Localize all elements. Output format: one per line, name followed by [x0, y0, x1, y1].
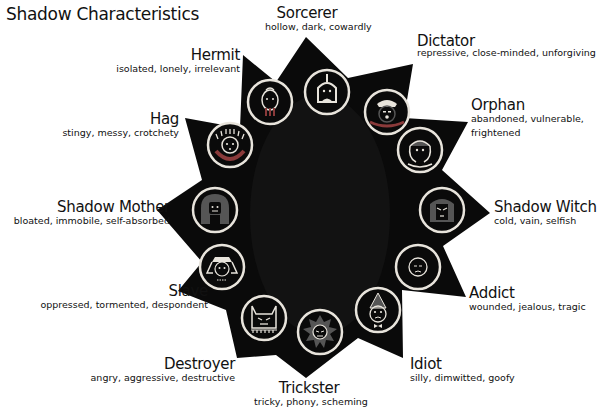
addict-face-icon	[396, 245, 440, 289]
archetype-traits: cold, vain, selfish	[494, 216, 597, 226]
archetype-traits: bloated, immobile, self-absorbed	[14, 216, 170, 226]
label-destroyer: Destroyer angry, aggressive, destructive	[91, 357, 235, 383]
archetype-name: Slave	[40, 284, 208, 299]
shadow-mother-face-icon	[193, 188, 237, 232]
idiot-face-icon	[356, 288, 400, 332]
label-shadow-witch: Shadow Witch cold, vain, selfish	[494, 200, 597, 226]
archetype-name: Idiot	[410, 357, 515, 372]
archetype-traits: oppressed, tormented, despondent	[40, 300, 208, 310]
label-slave: Slave oppressed, tormented, despondent	[40, 284, 208, 310]
label-hermit: Hermit isolated, lonely, irrelevant	[116, 48, 240, 74]
orphan-face-icon	[398, 128, 442, 172]
archetype-traits: tricky, phony, scheming	[254, 397, 364, 407]
label-trickster: Trickster tricky, phony, scheming	[254, 381, 364, 407]
archetype-traits: abandoned, vulnerable,	[471, 114, 584, 124]
archetype-name: Hermit	[116, 48, 240, 63]
archetype-traits: angry, aggressive, destructive	[91, 373, 235, 383]
hag-face-icon	[208, 123, 252, 167]
archetype-traits: isolated, lonely, irrelevant	[116, 64, 240, 74]
destroyer-face-icon	[242, 296, 286, 340]
trickster-face-icon	[298, 310, 342, 354]
label-hag: Hag stingy, messy, crotchety	[62, 112, 179, 138]
label-orphan: Orphan abandoned, vulnerable, frightened	[471, 98, 584, 137]
label-sorcerer: Sorcerer hollow, dark, cowardly	[265, 6, 349, 32]
archetype-name: Shadow Witch	[494, 200, 597, 215]
archetype-name: Sorcerer	[265, 6, 349, 21]
label-idiot: Idiot silly, dimwitted, goofy	[410, 357, 515, 383]
archetype-name: Orphan	[471, 98, 584, 113]
label-dictator: Dictator repressive, close-minded, unfor…	[417, 34, 596, 58]
archetype-traits: repressive, close-minded, unforgiving	[417, 48, 596, 58]
sorcerer-face-icon	[305, 70, 349, 114]
archetype-name: Destroyer	[91, 357, 235, 372]
archetype-traits-continued: frightened	[471, 128, 584, 138]
dictator-face-icon	[365, 90, 409, 134]
hermit-face-icon	[248, 80, 292, 124]
archetype-traits: wounded, jealous, tragic	[469, 302, 586, 312]
shadow-witch-face-icon	[420, 188, 464, 232]
archetype-name: Trickster	[254, 381, 364, 396]
archetype-name: Addict	[469, 286, 586, 301]
archetype-name: Hag	[62, 112, 179, 127]
archetype-traits: silly, dimwitted, goofy	[410, 373, 515, 383]
label-addict: Addict wounded, jealous, tragic	[469, 286, 586, 312]
label-shadow-mother: Shadow Mother bloated, immobile, self-ab…	[14, 200, 170, 226]
archetype-traits: hollow, dark, cowardly	[265, 22, 349, 32]
archetype-name: Shadow Mother	[14, 200, 170, 215]
archetype-traits: stingy, messy, crotchety	[62, 128, 179, 138]
